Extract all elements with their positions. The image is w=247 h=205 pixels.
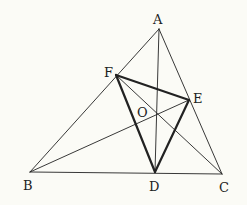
label-c: C xyxy=(219,180,229,195)
segment-ef xyxy=(116,75,189,100)
label-d: D xyxy=(149,179,159,194)
label-o: O xyxy=(137,105,148,120)
segment-fd xyxy=(116,75,155,172)
segment-be xyxy=(30,100,189,172)
segment-ad xyxy=(155,29,159,172)
segment-bc xyxy=(30,172,222,174)
label-e: E xyxy=(193,91,203,106)
label-a: A xyxy=(152,12,163,27)
label-b: B xyxy=(23,178,33,193)
segment-ca xyxy=(159,29,222,174)
segment-ab xyxy=(30,29,159,172)
segment-cf xyxy=(116,75,222,174)
segment-de xyxy=(155,100,189,172)
label-f: F xyxy=(104,65,113,80)
geometry-diagram: A F E O B D C xyxy=(0,0,247,205)
